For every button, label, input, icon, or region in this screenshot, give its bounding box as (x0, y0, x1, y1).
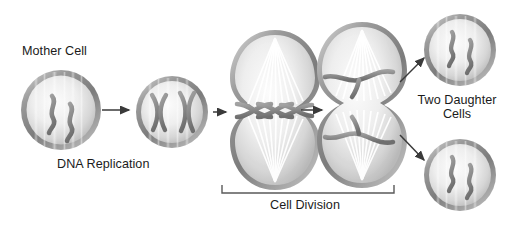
stage-telophase-cell (317, 22, 407, 188)
stage-daughter-cell-top (424, 14, 496, 86)
stage-replicated-cell (136, 76, 208, 148)
label-mother-cell: Mother Cell (22, 44, 87, 58)
stage-daughter-cell-bottom (424, 139, 496, 211)
label-two-daughter-cells-line1: Two Daughter (417, 93, 496, 107)
label-two-daughter-cells: Two Daughter Cells (407, 93, 507, 121)
diagram-canvas: Mother Cell DNA Replication Cell Divisio… (0, 0, 514, 225)
stage-mother-cell (21, 70, 101, 150)
label-cell-division: Cell Division (270, 198, 340, 212)
label-dna-replication: DNA Replication (57, 157, 149, 171)
label-two-daughter-cells-line2: Cells (407, 107, 507, 121)
